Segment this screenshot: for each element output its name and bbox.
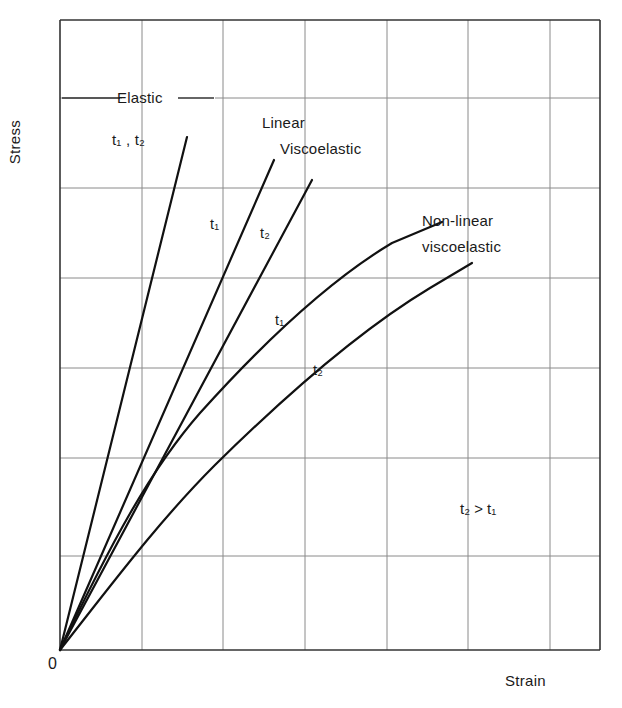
curve-elastic <box>60 137 187 650</box>
origin-label: 0 <box>48 655 57 674</box>
stress-strain-figure: Stress Strain 0 Elastic t₁ , t₂ Linear V… <box>0 0 622 708</box>
label-nonlinear-viscoelastic-line2: viscoelastic <box>422 238 501 256</box>
y-axis-label: Stress <box>6 120 24 164</box>
label-elastic-times: t₁ , t₂ <box>112 131 145 149</box>
data-curves <box>60 137 472 650</box>
plot-canvas <box>0 0 622 708</box>
label-nonlinear-viscoelastic-line1: Non-linear <box>422 212 493 230</box>
label-linear-viscoelastic-t1: t₁ <box>210 216 219 233</box>
label-linear-viscoelastic-line2: Viscoelastic <box>280 140 361 158</box>
label-linear-viscoelastic-t2: t₂ <box>260 225 270 242</box>
label-linear-viscoelastic-line1: Linear <box>262 114 305 132</box>
curve-nonlinear-viscoelastic-t1 <box>60 222 442 650</box>
x-axis-label: Strain <box>505 672 546 690</box>
curve-linear-viscoelastic-t1 <box>60 160 274 650</box>
label-nonlinear-viscoelastic-t2: t₂ <box>313 362 323 379</box>
curve-linear-viscoelastic-t2 <box>60 180 312 650</box>
annotation-time-order: t₂ > t₁ <box>460 500 496 518</box>
curve-nonlinear-viscoelastic-t2 <box>60 263 472 650</box>
label-nonlinear-viscoelastic-t1: t₁ <box>275 312 284 329</box>
label-elastic: Elastic <box>117 89 163 107</box>
